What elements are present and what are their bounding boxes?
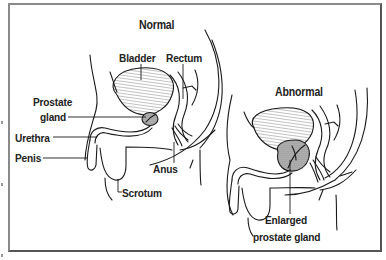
label-enlarged-line2: prostate gland xyxy=(253,231,320,243)
abnormal-panel-title: Abnormal xyxy=(275,86,323,98)
anatomy-illustration xyxy=(0,0,386,260)
label-enlarged-line1: Enlarged xyxy=(265,214,307,226)
label-bladder: Bladder xyxy=(119,52,155,64)
label-prostate-line1: Prostate xyxy=(33,96,72,108)
label-rectum: Rectum xyxy=(166,52,202,64)
label-anus: Anus xyxy=(153,163,178,175)
label-urethra: Urethra xyxy=(15,132,50,144)
label-prostate-line2: gland xyxy=(40,111,66,123)
label-penis: Penis xyxy=(15,152,41,164)
normal-panel-title: Normal xyxy=(139,19,174,31)
label-scrotum: Scrotum xyxy=(122,187,162,199)
